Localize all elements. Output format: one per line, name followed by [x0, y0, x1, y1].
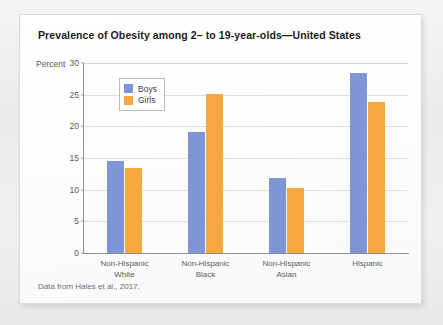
y-tick-label: 10	[70, 185, 79, 195]
bar-girls-4	[368, 102, 385, 253]
x-category-label: Non-HispanicAsian	[262, 259, 310, 280]
x-category-label: Non-HispanicBlack	[181, 259, 229, 280]
y-tick-mark	[81, 189, 84, 190]
y-axis-label: Percent	[36, 59, 65, 69]
bar-girls-2	[206, 94, 223, 253]
bar-girls-3	[287, 188, 304, 253]
x-category-line: White	[100, 270, 148, 281]
y-tick-mark	[81, 253, 84, 254]
y-tick-label: 30	[70, 58, 79, 68]
x-category-label: Non-HispanicWhite	[100, 259, 148, 280]
y-tick-label: 20	[70, 121, 79, 131]
y-tick-mark	[81, 158, 84, 159]
bar-boys-4	[350, 73, 367, 254]
x-category-label: Hispanic	[352, 259, 383, 270]
bar-boys-1	[107, 161, 124, 253]
x-category-line: Non-Hispanic	[100, 259, 148, 270]
x-category-line: Non-Hispanic	[262, 259, 310, 270]
legend-swatch-girls	[124, 96, 133, 105]
legend-item-girls: Girls	[124, 95, 157, 105]
y-tick-mark	[81, 126, 84, 127]
bar-boys-2	[188, 132, 205, 253]
y-tick-label: 15	[70, 153, 79, 163]
y-tick-mark	[81, 94, 84, 95]
x-category-line: Black	[181, 270, 229, 281]
y-tick-mark	[81, 221, 84, 222]
figure-card: Prevalence of Obesity among 2– to 19-yea…	[19, 14, 422, 304]
chart-title: Prevalence of Obesity among 2– to 19-yea…	[38, 29, 361, 41]
x-category-line: Hispanic	[352, 259, 383, 270]
y-tick-label: 25	[70, 90, 79, 100]
legend-item-boys: Boys	[124, 84, 157, 94]
legend: Boys Girls	[119, 78, 165, 111]
legend-label-girls: Girls	[138, 95, 155, 105]
legend-label-boys: Boys	[138, 84, 157, 94]
bar-girls-1	[125, 168, 142, 254]
y-tick-mark	[81, 63, 84, 64]
y-tick-label: 0	[74, 248, 79, 258]
x-category-line: Non-Hispanic	[181, 259, 229, 270]
y-tick-label: 5	[74, 216, 79, 226]
gridline	[84, 63, 408, 64]
bar-boys-3	[269, 178, 286, 253]
x-category-line: Asian	[262, 270, 310, 281]
legend-swatch-boys	[124, 84, 133, 93]
source-note: Data from Hales et al., 2017.	[38, 282, 140, 291]
